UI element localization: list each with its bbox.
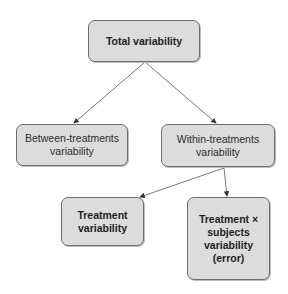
node-label-line: Between-treatments bbox=[25, 132, 119, 145]
node-label-line: variability bbox=[177, 146, 259, 159]
node-label-line: Treatment × bbox=[199, 213, 258, 226]
node-within-treatments-variability: Within-treatments variability bbox=[161, 124, 275, 167]
node-label: Total variability bbox=[106, 35, 182, 48]
node-label-line: variability bbox=[199, 239, 258, 252]
node-error-variability: Treatment × subjects variability (error) bbox=[187, 197, 270, 280]
node-total-variability: Total variability bbox=[88, 20, 200, 62]
arrow-total-to-between bbox=[74, 62, 145, 123]
node-label-line: variability bbox=[77, 222, 127, 235]
node-between-treatments-variability: Between-treatments variability bbox=[16, 124, 128, 166]
node-label-line: (error) bbox=[199, 252, 258, 265]
arrow-total-to-within bbox=[145, 62, 216, 123]
arrow-within-to-error bbox=[224, 168, 227, 196]
node-label-line: variability bbox=[25, 145, 119, 158]
node-treatment-variability: Treatment variability bbox=[61, 197, 144, 246]
node-label-line: subjects bbox=[199, 226, 258, 239]
node-label-line: Within-treatments bbox=[177, 133, 259, 146]
arrow-within-to-treatment bbox=[140, 168, 224, 197]
node-label-line: Treatment bbox=[77, 209, 127, 222]
